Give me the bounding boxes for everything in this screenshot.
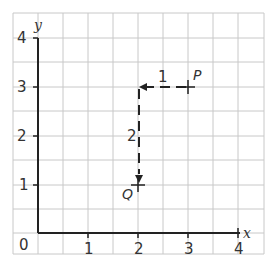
x-tick-1: 1: [84, 240, 94, 258]
coordinate-grid: y x 0 4 3 2 1 1 2 3 4 1 2 P Q: [0, 0, 274, 267]
y-tick-4: 4: [17, 29, 27, 47]
origin-label: 0: [19, 236, 29, 254]
x-axis-label: x: [243, 225, 251, 241]
y-axis-label: y: [33, 17, 43, 33]
arrow-left-icon: [139, 83, 147, 91]
x-tick-3: 3: [184, 240, 194, 258]
point-q-marker: [131, 178, 145, 192]
point-p-label: P: [193, 67, 202, 83]
x-tick-4: 4: [234, 240, 244, 258]
y-tick-1: 1: [19, 176, 29, 194]
move-2-label: 2: [127, 127, 137, 145]
arrow-down-icon: [135, 175, 143, 183]
point-q-label: Q: [122, 186, 133, 202]
y-tick-2: 2: [17, 127, 27, 145]
x-tick-2: 2: [134, 240, 144, 258]
y-tick-3: 3: [17, 78, 27, 96]
grid-lines: [13, 13, 264, 254]
move-1-label: 1: [158, 68, 168, 86]
